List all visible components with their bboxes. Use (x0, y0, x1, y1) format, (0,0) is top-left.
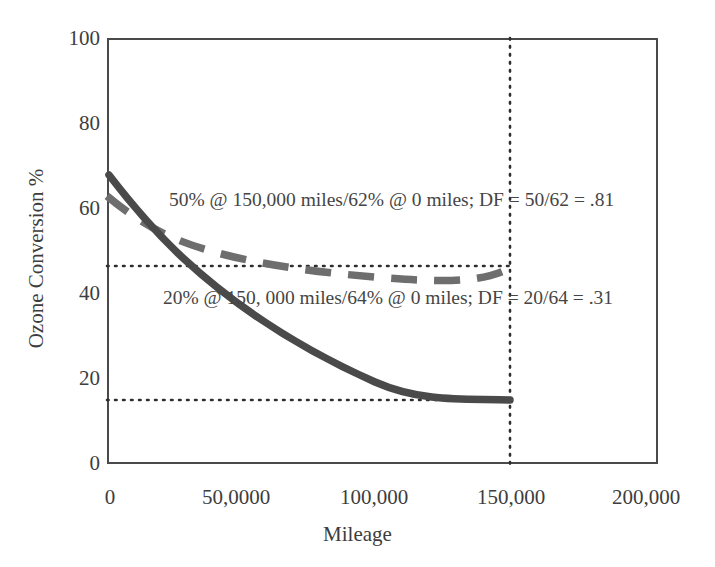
y-tick-20: 20 (40, 368, 100, 389)
x-tick-200000: 200,000 (566, 487, 715, 508)
x-tick-50000: 50,0000 (156, 487, 316, 508)
x-axis-ticks: 0 50,0000 100,000 150,000 200,000 (0, 487, 715, 517)
x-axis-title: Mileage (0, 523, 715, 545)
x-tick-100000: 100,000 (294, 487, 454, 508)
y-tick-60: 60 (40, 198, 100, 219)
y-tick-80: 80 (40, 113, 100, 134)
y-tick-100: 100 (40, 28, 100, 49)
y-tick-0: 0 (40, 453, 100, 474)
lower-df-annotation: 20% @ 150, 000 miles/64% @ 0 miles; DF =… (163, 288, 613, 308)
y-tick-40: 40 (40, 283, 100, 304)
chart-figure: 100 80 60 40 20 0 0 50,0000 100,000 150,… (0, 0, 715, 567)
y-axis-title: Ozone Conversion % (26, 159, 47, 359)
plot-area (107, 38, 658, 464)
upper-df-annotation: 50% @ 150,000 miles/62% @ 0 miles; DF = … (169, 190, 614, 210)
